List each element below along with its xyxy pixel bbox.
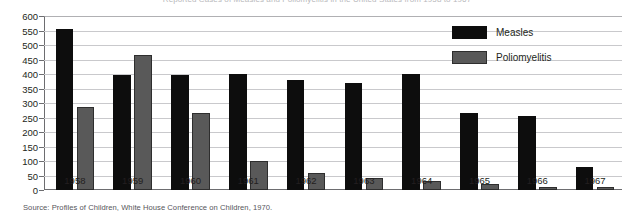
y-axis-label: 500	[4, 41, 38, 51]
bar-measles-1962	[287, 80, 305, 190]
y-axis-label: 150	[4, 143, 38, 153]
chart-title: Reported Cases of Measles and Poliomyeli…	[0, 0, 634, 4]
y-axis-label: 0	[4, 186, 38, 196]
x-axis-label-1966: 1966	[504, 176, 571, 186]
bar-group	[56, 16, 95, 190]
y-axis-label: 400	[4, 70, 38, 80]
bar-group	[345, 16, 384, 190]
bar-group	[229, 16, 268, 190]
bar-measles-1963	[345, 83, 363, 190]
legend-label-measles: Measles	[496, 27, 533, 38]
y-axis-label: 550	[4, 27, 38, 37]
bar-poliomyelitis-1966	[539, 187, 557, 190]
x-axis-label-1963: 1963	[331, 176, 398, 186]
x-axis-label-1961: 1961	[215, 176, 282, 186]
bar-measles-1961	[229, 74, 247, 190]
x-axis-label-1960: 1960	[157, 176, 224, 186]
y-axis-label: 50	[4, 172, 38, 182]
x-axis-label-1958: 1958	[42, 176, 109, 186]
bar-group	[576, 16, 615, 190]
bar-group	[287, 16, 326, 190]
legend-item-poliomyelitis: Poliomyelitis	[452, 49, 552, 66]
chart-figure: Reported Cases of Measles and Poliomyeli…	[0, 0, 634, 218]
y-axis-label: 600	[4, 12, 38, 22]
y-axis-label: 200	[4, 128, 38, 138]
y-axis-label: 300	[4, 99, 38, 109]
bar-group	[113, 16, 152, 190]
bar-poliomyelitis-1967	[597, 187, 615, 190]
bar-measles-1960	[171, 75, 189, 190]
x-axis-label-1967: 1967	[562, 176, 629, 186]
bar-measles-1959	[113, 75, 131, 190]
x-axis-label-1959: 1959	[99, 176, 166, 186]
y-axis-label: 250	[4, 114, 38, 124]
legend: Measles Poliomyelitis	[452, 24, 552, 74]
x-axis-label-1962: 1962	[273, 176, 340, 186]
legend-item-measles: Measles	[452, 24, 552, 41]
x-axis-label-1964: 1964	[388, 176, 455, 186]
y-axis-tick	[39, 190, 44, 191]
bar-poliomyelitis-1959	[134, 55, 152, 190]
y-axis-label: 350	[4, 85, 38, 95]
bar-group	[171, 16, 210, 190]
source-note: Source: Profiles of Children, White Hous…	[23, 203, 272, 212]
x-axis-label-1965: 1965	[446, 176, 513, 186]
legend-swatch-measles	[452, 26, 487, 39]
y-axis-label: 450	[4, 56, 38, 66]
legend-swatch-poliomyelitis	[452, 51, 487, 64]
legend-label-poliomyelitis: Poliomyelitis	[496, 52, 552, 63]
bar-measles-1958	[56, 29, 74, 190]
y-axis-label: 100	[4, 157, 38, 167]
bar-measles-1964	[402, 74, 420, 190]
bar-group	[402, 16, 441, 190]
